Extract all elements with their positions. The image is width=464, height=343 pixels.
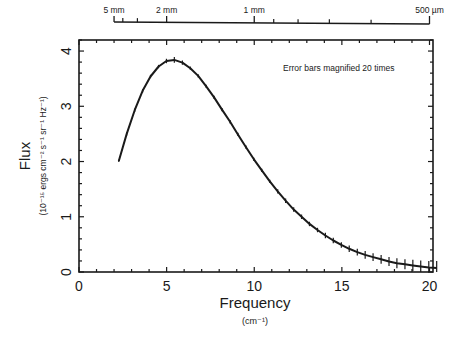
y-axis-units: (10⁻¹⁵ ergs cm⁻² s⁻¹ sr⁻¹ Hz⁻¹) xyxy=(38,96,48,215)
y-tick-label: 0 xyxy=(58,268,74,276)
x-tick-label: 0 xyxy=(75,278,83,294)
top-wavelength-axis: 5 mm2 mm1 mm500 µm xyxy=(103,5,443,24)
flux-spectrum-chart: 05101520 01234 5 mm2 mm1 mm500 µm Error … xyxy=(0,0,464,343)
top-axis-line xyxy=(114,22,429,24)
top-axis-label: 500 µm xyxy=(415,5,444,15)
spectrum-line xyxy=(119,60,437,268)
top-axis-label: 5 mm xyxy=(103,5,124,15)
x-axis-label: Frequency xyxy=(220,294,291,311)
x-tick-label: 5 xyxy=(163,278,171,294)
x-tick-labels: 05101520 xyxy=(75,278,437,294)
x-tick-label: 10 xyxy=(246,278,262,294)
y-axis-label: Flux xyxy=(16,141,33,170)
x-tick-label: 20 xyxy=(422,278,438,294)
annotation-text: Error bars magnified 20 times xyxy=(283,63,395,73)
y-tick-labels: 01234 xyxy=(58,47,74,276)
y-tick-label: 2 xyxy=(58,157,74,165)
y-tick-label: 3 xyxy=(58,102,74,110)
axis-ticks xyxy=(79,40,433,272)
y-tick-label: 4 xyxy=(58,47,74,55)
x-axis-units: (cm⁻¹) xyxy=(242,316,268,326)
top-axis-label: 2 mm xyxy=(156,5,177,15)
data-series xyxy=(119,57,437,272)
plot-frame xyxy=(79,40,433,272)
x-tick-label: 15 xyxy=(334,278,350,294)
y-tick-label: 1 xyxy=(58,213,74,221)
top-axis-label: 1 mm xyxy=(244,5,265,15)
